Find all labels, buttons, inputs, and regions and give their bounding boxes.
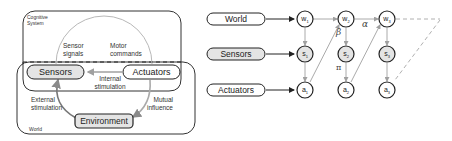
mutual-influence-label: Mutual — [143, 96, 173, 104]
beta-label: β — [336, 27, 341, 37]
sensor-signals-label-2: signals — [63, 50, 84, 58]
node-s1-label: s1 — [297, 48, 313, 63]
node-s2-label: s2 — [338, 48, 354, 63]
node-a3-label: a3 — [379, 84, 395, 99]
external-stimulation-label: External — [31, 96, 62, 104]
mutual-influence-label-2: influence — [143, 104, 173, 112]
actuators-row-label: Actuators — [207, 84, 265, 96]
a1-w2-edge — [310, 25, 339, 82]
motor-commands-label: Motor — [110, 42, 142, 50]
motor-commands-label-2: commands — [110, 50, 142, 58]
cognitive-system-label-2: System — [27, 20, 48, 26]
future-a3-dashed — [395, 20, 440, 80]
internal-stimulation-label-2: stimulation — [90, 83, 130, 91]
sensors-label: Sensors — [27, 65, 84, 79]
a2-w3-edge — [351, 25, 380, 82]
environment-label: Environment — [75, 114, 133, 128]
internal-stimulation-label: Internal — [90, 75, 130, 83]
actuators-label: Actuators — [123, 65, 180, 79]
sensor-signals-label: Sensor — [63, 42, 84, 50]
node-s3-label: s3 — [379, 48, 395, 63]
node-w3-label: w3 — [379, 13, 395, 28]
node-a1-label: a1 — [297, 84, 313, 99]
alpha-label: α — [362, 19, 368, 29]
pi-label: π — [336, 63, 341, 72]
node-w1-label: w1 — [297, 13, 313, 28]
sensors-row-label: Sensors — [207, 48, 265, 60]
world-label: World — [29, 126, 42, 132]
node-a2-label: a2 — [338, 84, 354, 99]
world-row-label: World — [207, 13, 265, 25]
external-stimulation-label-2: stimulation — [31, 104, 62, 112]
